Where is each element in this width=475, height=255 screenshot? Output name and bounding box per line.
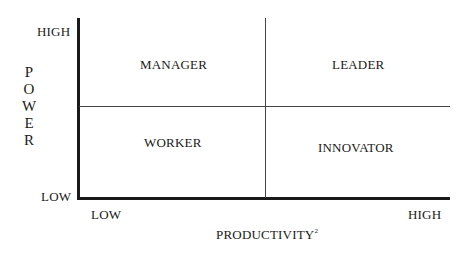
y-axis — [77, 18, 80, 200]
y-tick-low: LOW — [41, 189, 71, 205]
ylabel-letter: W — [22, 98, 36, 115]
ylabel-letter: E — [22, 115, 36, 132]
ylabel-letter: O — [22, 81, 36, 98]
vertical-divider — [265, 18, 266, 198]
quadrant-worker: WORKER — [144, 135, 202, 151]
x-tick-low: LOW — [91, 207, 121, 223]
quadrant-innovator: INNOVATOR — [318, 140, 394, 156]
x-axis-title-superscript: 2 — [314, 227, 318, 235]
ylabel-letter: R — [22, 132, 36, 149]
horizontal-divider — [79, 106, 450, 107]
x-tick-high: HIGH — [408, 207, 441, 223]
quadrant-manager: MANAGER — [140, 57, 207, 73]
x-axis-title-text: PRODUCTIVITY — [216, 227, 314, 242]
y-tick-high: HIGH — [37, 24, 70, 40]
ylabel-letter: P — [22, 64, 36, 81]
x-axis-title: PRODUCTIVITY2 — [216, 227, 318, 243]
x-axis — [77, 197, 450, 200]
quadrant-leader: LEADER — [332, 57, 384, 73]
